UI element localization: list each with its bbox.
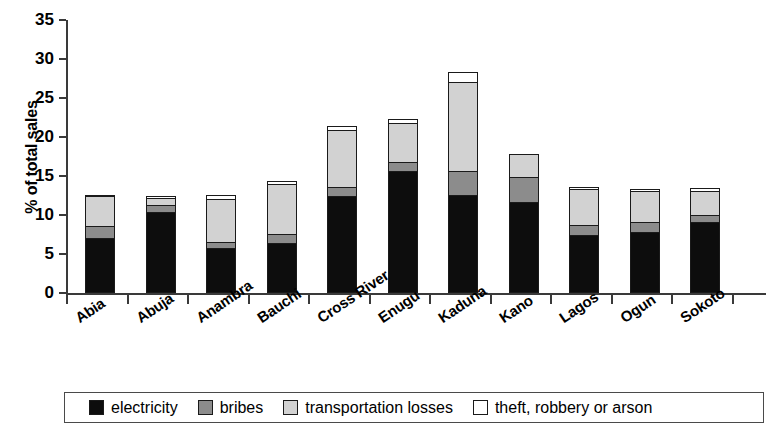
bar-abuja [146,196,176,293]
x-tick-mark [671,295,673,304]
bar-segment-bribes [509,177,539,203]
y-tick-mark [59,175,66,177]
y-tick-mark [59,19,66,21]
bar-segment-electricity [569,235,599,294]
bar-anambra [206,195,236,293]
legend-label: electricity [111,399,178,417]
x-tick-mark [248,295,250,304]
y-tick-label: 25 [0,89,54,106]
bar-segment-transportation [630,191,660,223]
bar-segment-transportation [388,123,418,164]
x-axis-label-abia: Abia [72,294,108,326]
bar-segment-transportation [267,184,297,235]
y-tick-label: 0 [0,284,54,301]
bar-segment-transportation [448,82,478,172]
stacked-bar-chart: % of total sales 05101520253035 AbiaAbuj… [0,0,770,429]
x-tick-mark [490,295,492,304]
bar-ogun [630,189,660,293]
x-tick-mark [369,295,371,304]
legend-label: bribes [220,399,264,417]
bar-segment-bribes [85,226,115,239]
bar-segment-transportation [690,191,720,217]
bar-segment-electricity [146,212,176,293]
y-tick-mark [59,58,66,60]
legend-label: transportation losses [305,399,453,417]
bar-kaduna [448,72,478,293]
x-tick-mark [308,295,310,304]
bar-segment-electricity [85,238,115,293]
legend-swatch-bribes [198,400,213,415]
legend-item-electricity: electricity [89,399,178,417]
legend-label: theft, robbery or arson [495,399,652,417]
legend-swatch-theft [473,400,488,415]
y-tick-label: 35 [0,11,54,28]
bar-segment-electricity [630,232,660,293]
y-axis-line [66,20,68,294]
bar-segment-transportation [509,154,539,178]
legend-item-bribes: bribes [198,399,264,417]
bar-cross-river [327,126,357,293]
x-axis-label-ogun: Ogun [617,291,658,327]
bar-bauchi [267,181,297,293]
bar-sokoto [690,188,720,293]
x-tick-mark [187,295,189,304]
bar-segment-electricity [388,171,418,293]
bar-segment-electricity [327,196,357,294]
bar-abia [85,195,115,293]
y-tick-label: 15 [0,167,54,184]
y-tick-mark [59,253,66,255]
plot-area: 05101520253035 AbiaAbujaAnambraBauchiCro… [66,20,766,293]
bar-segment-electricity [509,202,539,293]
x-tick-mark [429,295,431,304]
legend-item-transportation: transportation losses [283,399,453,417]
x-tick-mark [550,295,552,304]
bar-enugu [388,119,418,293]
y-tick-label: 5 [0,245,54,262]
bar-segment-transportation [327,130,357,188]
x-tick-mark [66,295,68,304]
legend-swatch-transportation [283,400,298,415]
bar-segment-transportation [85,196,115,227]
bar-segment-transportation [569,189,599,226]
y-tick-mark [59,214,66,216]
legend-item-theft: theft, robbery or arson [473,399,652,417]
chart-legend: electricitybribestransportation lossesth… [64,392,764,423]
bar-segment-electricity [448,195,478,293]
bar-segment-transportation [206,199,236,243]
bar-segment-electricity [690,222,720,293]
x-tick-mark [611,295,613,304]
y-tick-mark [59,292,66,294]
x-tick-mark [127,295,129,304]
bar-lagos [569,187,599,293]
legend-swatch-electricity [89,400,104,415]
y-axis-label: % of total sales [23,57,41,257]
x-tick-mark [732,295,734,304]
y-tick-mark [59,97,66,99]
y-tick-mark [59,136,66,138]
bar-kano [509,154,539,293]
x-axis-label-kano: Kano [496,291,536,326]
y-tick-label: 30 [0,50,54,67]
bar-segment-bribes [448,171,478,196]
y-tick-label: 20 [0,128,54,145]
y-tick-label: 10 [0,206,54,223]
